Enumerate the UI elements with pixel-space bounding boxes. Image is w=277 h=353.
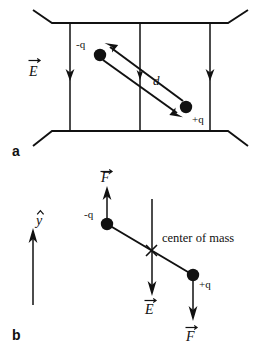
charge-label-positive-a: +q	[192, 113, 204, 125]
panel-a: E -q +q d a	[12, 10, 248, 159]
separation-label: d	[153, 73, 160, 88]
field-label-b-text: E	[144, 302, 154, 317]
force-vector-top: F	[100, 170, 112, 218]
charge-label-negative-a: -q	[76, 38, 86, 50]
charge-dot-positive-b	[187, 269, 199, 281]
center-of-mass: center of mass	[146, 231, 234, 256]
separation-label-text: d	[153, 73, 160, 88]
panel-b: y E center of mass F	[12, 170, 234, 344]
field-label-a-text: E	[28, 64, 38, 79]
panel-a-label: a	[12, 143, 20, 159]
charge-dot-negative-a	[94, 49, 106, 61]
field-label-a: E	[28, 59, 40, 79]
field-line-b: E	[144, 199, 156, 317]
force-label-top: F	[100, 170, 110, 185]
unit-vector-y: y	[29, 211, 44, 305]
field-line-left	[66, 23, 75, 131]
charge-label-negative-b: -q	[84, 208, 94, 220]
field-line-middle	[137, 23, 144, 131]
top-capacitor-plate	[33, 10, 248, 23]
dipole-separation-arrow	[103, 43, 183, 117]
charge-negative-a: -q	[76, 38, 106, 61]
charge-dot-positive-a	[180, 101, 192, 113]
unit-vector-label: y	[34, 213, 43, 228]
charge-dot-negative-b	[101, 218, 113, 230]
force-label-bottom: F	[185, 329, 195, 344]
center-of-mass-label: center of mass	[162, 231, 234, 245]
charge-label-positive-b: +q	[199, 278, 211, 290]
charge-negative-b: -q	[84, 208, 113, 230]
panel-b-label: b	[12, 327, 21, 343]
bottom-capacitor-plate	[33, 131, 248, 146]
force-vector-bottom: F	[185, 281, 197, 344]
dipole-field-diagram: E -q +q d a	[0, 0, 277, 353]
charge-positive-a: +q	[180, 101, 204, 125]
charge-positive-b: +q	[187, 269, 211, 290]
field-line-right	[206, 23, 215, 131]
